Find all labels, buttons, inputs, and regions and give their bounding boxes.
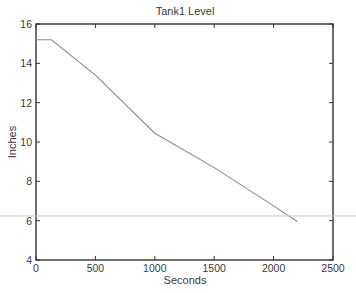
- y-tick-label: 16: [20, 18, 32, 30]
- y-tick-label: 10: [20, 136, 32, 148]
- x-axis-label: Seconds: [164, 274, 207, 286]
- x-tick-label: 1500: [203, 262, 227, 274]
- y-tick-label: 6: [26, 215, 32, 227]
- tank1-level-chart: Tank1 Level 0500100015002000250046810121…: [0, 0, 356, 293]
- y-tick-label: 4: [26, 254, 32, 266]
- x-tick-label: 1000: [143, 262, 167, 274]
- series-line-tank1-level: [36, 40, 297, 222]
- y-tick-label: 8: [26, 175, 32, 187]
- chart-title: Tank1 Level: [156, 5, 215, 17]
- y-tick-label: 14: [20, 57, 32, 69]
- x-tick-label: 500: [87, 262, 105, 274]
- y-tick-label: 12: [20, 97, 32, 109]
- x-tick-label: 2500: [321, 262, 345, 274]
- x-tick-label: 2000: [262, 262, 286, 274]
- axes-frame: [36, 24, 333, 260]
- plot-area: 0500100015002000250046810121416: [0, 18, 356, 274]
- y-axis-label: Inches: [6, 125, 18, 158]
- x-tick-label: 0: [33, 262, 39, 274]
